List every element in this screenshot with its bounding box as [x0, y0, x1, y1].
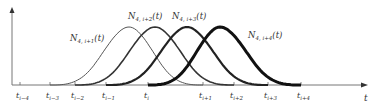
- knot-label: ti+2: [230, 91, 244, 101]
- basis-curve-3: [106, 27, 268, 85]
- knot-label: ti−1: [102, 91, 115, 101]
- curve-label-2: N4, i+2(t): [127, 11, 162, 22]
- knot-label: ti: [144, 91, 149, 101]
- curve-label-3: N4, i+3(t): [171, 11, 206, 22]
- knot-label: ti+1: [199, 91, 212, 101]
- bspline-basis-diagram: t ti−4ti−3ti−2ti−1titi+1ti+2ti+3ti+4 N4,…: [0, 0, 373, 107]
- knot-label: ti−4: [16, 91, 30, 101]
- knot-label: ti−3: [46, 91, 60, 101]
- knot-label: ti+3: [264, 91, 278, 101]
- x-axis-label: t: [364, 93, 368, 103]
- curve-label-4: N4, i+4(t): [247, 30, 282, 41]
- curve-labels: N4, i+1(t)N4, i+2(t)N4, i+3(t)N4, i+4(t): [69, 11, 282, 44]
- knot-label: ti−2: [71, 91, 85, 101]
- knot-label: ti+4: [297, 91, 311, 101]
- y-axis-arrow-icon: [10, 7, 15, 13]
- curve-label-1: N4, i+1(t): [69, 33, 104, 44]
- x-axis-arrow-icon: [361, 83, 368, 88]
